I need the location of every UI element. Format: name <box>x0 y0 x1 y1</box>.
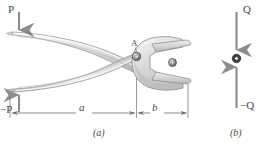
figure-svg <box>0 0 257 149</box>
force-negP-label: −P <box>0 104 12 115</box>
dimension-b-label: b <box>152 102 158 113</box>
upper-handle-tip <box>7 32 14 35</box>
lower-handle-tip <box>7 89 14 92</box>
force-P-label: P <box>8 4 14 15</box>
force-negQ-label: −Q <box>240 100 254 111</box>
dimension-a-label: a <box>79 102 85 113</box>
pivot-A-label: A <box>131 39 138 48</box>
force-Q-label: Q <box>243 4 251 15</box>
pin-ring <box>232 54 240 62</box>
pivot-pin-A <box>132 52 140 60</box>
upper-handle <box>12 32 150 76</box>
figure-container: P −P A a b Q −Q (a) (b) <box>0 0 257 149</box>
caption-panel-b: (b) <box>230 128 242 138</box>
caption-panel-a: (a) <box>93 128 105 138</box>
lower-handle <box>12 50 150 92</box>
pliers-body <box>7 12 191 118</box>
jaw-rivet-pin <box>169 59 177 67</box>
pin-free-body <box>232 12 240 108</box>
